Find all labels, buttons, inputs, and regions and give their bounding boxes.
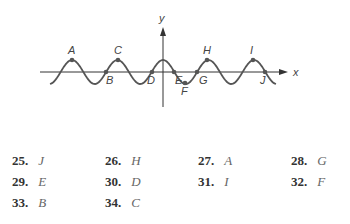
point-label-i: I [250,44,253,56]
answer-item: 27.A [198,153,232,169]
answer-item: 28.G [291,153,327,169]
answer-item: 26.H [105,153,141,169]
point-label-d: D [147,74,155,86]
point-a [70,58,75,63]
labeled-points: ABCDEFGHIJ [67,44,267,97]
y-axis-arrow-icon [160,27,166,36]
answer-item: 30.D [105,174,141,190]
point-label-a: A [67,44,75,56]
point-label-h: H [203,44,211,56]
point-label-f: F [181,85,189,97]
point-c [116,58,121,63]
point-label-j: J [259,74,266,86]
point-label-c: C [114,44,122,56]
y-axis-label: y [158,12,166,24]
answer-item: 34.C [105,195,140,211]
sine-graph: x y ABCDEFGHIJ [0,0,350,130]
answer-item: 25.J [12,153,44,169]
x-axis-arrow-icon [279,69,288,75]
answer-item: 29.E [12,174,46,190]
answer-item: 33.B [12,195,46,211]
point-i [251,58,256,63]
answer-item: 31.I [198,174,229,190]
point-label-b: B [106,74,113,86]
answer-item: 32.F [291,174,325,190]
point-h [205,58,210,63]
point-label-g: G [199,74,208,86]
x-axis-label: x [292,66,299,78]
